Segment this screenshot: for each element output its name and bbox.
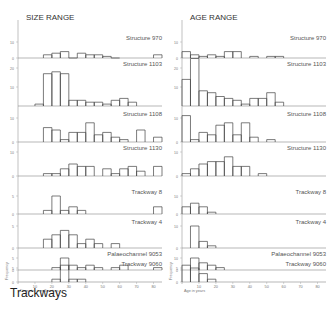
chart-title: SIZE RANGE <box>26 13 74 22</box>
svg-text:10: 10 <box>10 151 14 155</box>
x-tick: 80 <box>151 285 155 289</box>
histogram-panel: Structure 1108010 <box>174 111 327 145</box>
histogram-panel: Trackway 4010 <box>174 219 327 251</box>
histogram-bars <box>182 157 267 176</box>
panel-label: Trackway 9060 <box>122 261 163 267</box>
histogram-bars <box>43 123 162 142</box>
svg-text:0: 0 <box>12 213 14 217</box>
svg-text:10: 10 <box>10 117 14 121</box>
svg-text:0: 0 <box>12 175 14 179</box>
histogram-panel: Structure 1108010 <box>10 111 163 145</box>
panel-label: Palaeochannel 9053 <box>271 251 326 257</box>
histogram-panel: Structure 1130010 <box>10 145 163 179</box>
x-tick: 50 <box>101 285 105 289</box>
svg-text:0: 0 <box>12 57 14 61</box>
histogram-bars <box>43 164 162 176</box>
age-range-chart: AGE RANGEStructure 970010Structure 11031… <box>169 13 327 293</box>
x-tick: 60 <box>118 285 122 289</box>
panel-label: Structure 1108 <box>287 111 327 117</box>
svg-text:5: 5 <box>12 257 14 261</box>
svg-text:10: 10 <box>174 257 178 261</box>
histogram-bars <box>182 116 275 142</box>
x-tick: 70 <box>134 285 138 289</box>
histogram-panel: Trackway 906005 <box>12 261 163 285</box>
panel-label: Trackway 4 <box>132 219 163 225</box>
svg-text:0: 0 <box>176 281 178 285</box>
panel-label: Palaeochannel 9053 <box>107 251 162 257</box>
y-axis-label: Frequency <box>169 262 173 280</box>
panel-label: Structure 970 <box>126 35 163 41</box>
x-axis-label: Age in years <box>184 289 205 293</box>
x-tick: 70 <box>298 285 302 289</box>
x-tick: 80 <box>315 285 319 289</box>
histogram-bars <box>35 72 137 106</box>
histogram-panel: Structure 970010 <box>10 35 163 61</box>
histogram-panel: Structure 1130010 <box>174 145 327 179</box>
size-range-chart: SIZE RANGEStructure 970010Structure 1103… <box>5 13 163 293</box>
svg-text:0: 0 <box>176 57 178 61</box>
svg-text:10: 10 <box>10 86 14 90</box>
histogram-panel: Trackway 805 <box>12 189 163 217</box>
svg-text:20: 20 <box>174 67 178 71</box>
svg-text:20: 20 <box>10 67 14 71</box>
histogram-panel: Trackway 8010 <box>174 189 327 217</box>
svg-text:10: 10 <box>174 151 178 155</box>
x-tick: 30 <box>67 285 71 289</box>
svg-text:10: 10 <box>10 41 14 45</box>
svg-text:10: 10 <box>174 41 178 45</box>
x-tick: 40 <box>84 285 88 289</box>
histogram-bars <box>43 52 162 58</box>
panel-label: Structure 1108 <box>123 111 163 117</box>
svg-text:10: 10 <box>174 225 178 229</box>
panel-label: Trackway 9060 <box>286 261 327 267</box>
panel-label: Trackway 8 <box>296 189 327 195</box>
svg-text:0: 0 <box>176 141 178 145</box>
histogram-panel: Trackway 405 <box>12 219 163 251</box>
panel-label: Structure 1130 <box>287 145 327 151</box>
histogram-figure: SIZE RANGEStructure 970010Structure 1103… <box>0 0 329 311</box>
svg-text:0: 0 <box>12 141 14 145</box>
panel-label: Structure 1130 <box>123 145 163 151</box>
panel-label: Trackway 4 <box>296 219 327 225</box>
histogram-bars <box>190 226 215 248</box>
histogram-bars <box>182 59 284 107</box>
svg-text:0: 0 <box>176 175 178 179</box>
panel-label: Trackway 8 <box>132 189 163 195</box>
histogram-panel: Structure 970010 <box>174 35 327 61</box>
svg-text:0: 0 <box>12 281 14 285</box>
histogram-bars <box>182 203 216 214</box>
x-tick: 60 <box>282 285 286 289</box>
histogram-bars <box>43 196 162 214</box>
svg-text:5: 5 <box>12 267 14 271</box>
histogram-panel: Structure 11031020 <box>174 59 327 107</box>
svg-text:10: 10 <box>174 195 178 199</box>
histogram-bars <box>182 265 216 282</box>
svg-text:5: 5 <box>176 267 178 271</box>
y-axis-label: Frequency <box>5 262 9 280</box>
histogram-panel: Structure 11031020 <box>10 61 163 106</box>
svg-text:5: 5 <box>12 225 14 229</box>
chart-title: AGE RANGE <box>190 13 238 22</box>
svg-text:0: 0 <box>176 213 178 217</box>
svg-text:10: 10 <box>174 117 178 121</box>
x-tick: 40 <box>248 285 252 289</box>
histogram-bars <box>43 230 119 248</box>
x-tick: 50 <box>265 285 269 289</box>
svg-text:10: 10 <box>174 86 178 90</box>
x-tick: 20 <box>214 285 218 289</box>
x-tick: 30 <box>231 285 235 289</box>
svg-text:0: 0 <box>176 247 178 251</box>
figure-caption: Trackways <box>10 286 67 300</box>
histogram-bars <box>182 52 284 58</box>
svg-text:0: 0 <box>12 247 14 251</box>
svg-text:5: 5 <box>12 195 14 199</box>
panel-label: Structure 970 <box>290 35 327 41</box>
panel-label: Structure 1103 <box>287 61 327 67</box>
panel-label: Structure 1103 <box>123 61 163 67</box>
